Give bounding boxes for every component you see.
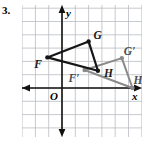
axes: [22, 5, 142, 137]
vertex-dot-F: [45, 55, 49, 59]
preimage-triangle-outline: [47, 41, 98, 70]
origin-label: O: [50, 90, 58, 102]
coordinate-plane: y x O F′G′H′FGH: [22, 5, 142, 137]
grid-lines: [22, 5, 142, 137]
vertex-label-G-prime: G′: [124, 45, 136, 57]
problem-number: 3.: [2, 4, 10, 16]
vertex-label-F: F: [33, 58, 42, 70]
y-axis-label: y: [64, 7, 71, 19]
x-axis-label: x: [131, 90, 138, 102]
vertex-label-H: H: [103, 67, 114, 79]
x-axis-arrow-left: [22, 85, 30, 92]
vertex-label-G: G: [94, 29, 103, 41]
coordinate-plane-svg: y x O F′G′H′FGH: [22, 5, 142, 137]
vertex-dot-G: [86, 39, 90, 43]
y-axis-arrow-up: [59, 5, 66, 13]
y-axis-arrow-down: [59, 129, 66, 137]
figure-container: 3. y x O: [0, 0, 155, 141]
vertex-label-H-prime: H′: [132, 74, 142, 86]
vertex-dot-H-prime: [130, 86, 134, 90]
vertex-label-F-prime: F′: [68, 72, 80, 84]
vertex-dot-H: [96, 69, 100, 73]
